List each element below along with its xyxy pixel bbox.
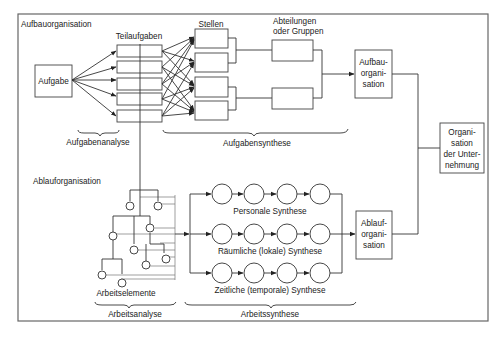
final-line1: Organi- [448, 128, 476, 137]
arbeitssynthese-brace [185, 302, 356, 308]
synthesis-row-2-label: Räumliche (lokale) Synthese [218, 247, 323, 256]
teilaufgaben-boxes [117, 45, 162, 122]
arbeitselemente-tree [98, 190, 175, 287]
synthesis-row-1-label: Personale Synthese [233, 207, 307, 216]
aufbau-section-title: Aufbauorganisation [21, 20, 92, 29]
abteilungen-label-line2: oder Gruppen [273, 27, 324, 36]
aufgabe-label: Aufgabe [38, 77, 69, 86]
aufbau-result-line3: sation [363, 80, 385, 89]
abteilungen-connectors [313, 50, 354, 98]
aufgabensynthese-label: Aufgabensynthese [223, 139, 291, 148]
synthesis-network [190, 184, 355, 283]
ablauf-result-line3: sation [363, 241, 385, 250]
ablauf-result-line2: organi- [361, 230, 387, 239]
final-connectors [392, 74, 440, 234]
synthesis-row-3-label: Zeitliche (temporale) Synthese [214, 286, 325, 295]
arbeitsanalyse-label: Arbeitsanalyse [108, 310, 162, 319]
final-line3: der Unter- [444, 150, 481, 159]
organization-diagram: Aufbauorganisation Aufgabe Teilaufgaben [0, 0, 504, 339]
stellen-label: Stellen [198, 20, 223, 29]
arbeitsanalyse-brace [95, 302, 176, 308]
stellen-connectors [228, 38, 272, 110]
synthesis-cross-arrows [162, 37, 194, 116]
teilaufgaben-label: Teilaufgaben [116, 32, 163, 41]
final-line4: nehmung [445, 161, 480, 170]
aufgabensynthese-brace [163, 129, 348, 136]
arbeitselemente-label: Arbeitselemente [96, 289, 156, 298]
arbeitssynthese-label: Arbeitssynthese [241, 310, 300, 319]
aufgabenanalyse-brace [78, 130, 119, 136]
analysis-arrows [72, 51, 116, 116]
abteilungen-label-line1: Abteilungen [273, 17, 317, 26]
aufbau-result-line1: Aufbau- [359, 58, 388, 67]
ablauf-result-line1: Ablauf- [361, 219, 387, 228]
abteilungen-boxes [272, 40, 313, 109]
aufgabenanalyse-label: Aufgabenanalyse [66, 138, 130, 147]
ablauf-section-title: Ablauforganisation [33, 177, 101, 186]
stellen-boxes [195, 29, 228, 120]
final-line2: sation [451, 139, 473, 148]
aufbau-result-line2: organi- [361, 69, 387, 78]
